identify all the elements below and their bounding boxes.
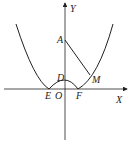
point-d-label: D (56, 72, 65, 83)
y-axis-label: Y (70, 3, 77, 14)
point-e-label: E (44, 90, 51, 101)
segment-am (65, 40, 90, 75)
point-a-label: A (56, 34, 64, 45)
origin-label: O (55, 90, 62, 101)
x-axis-label: X (115, 94, 123, 105)
math-diagram: Y X O A D E F M (0, 0, 129, 144)
diagram-canvas: Y X O A D E F M (0, 0, 129, 144)
point-f-label: F (75, 90, 83, 101)
curve-left-branch (16, 24, 49, 89)
point-m-label: M (91, 74, 101, 85)
